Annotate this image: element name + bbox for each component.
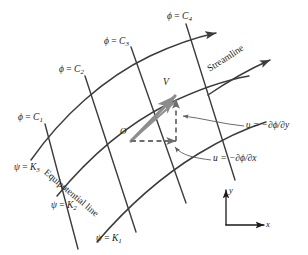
phi-c2-sub: 2 [80, 68, 84, 76]
phi-c2-eq: = [64, 64, 74, 74]
streamline-k1 [97, 122, 266, 242]
label-psi-k1: ψ = K1 [96, 234, 122, 245]
label-axis-x: x [266, 220, 270, 229]
phi-c4-sub: 4 [188, 15, 192, 23]
label-origin: O [120, 127, 127, 136]
streamline-k2 [57, 76, 249, 196]
streamline-k3 [31, 33, 216, 160]
label-phi-c4: ϕ = C4 [167, 12, 192, 23]
phi-c1-sub: 1 [39, 116, 43, 124]
phi-c3-sub: 3 [125, 40, 129, 48]
label-phi-c3: ϕ = C3 [104, 37, 129, 48]
label-phi-c1: ϕ = C1 [18, 113, 43, 124]
phi-c4-eq: = [172, 11, 182, 21]
psi-k2-eq: = [57, 200, 67, 210]
equipotential-c3 [131, 47, 186, 203]
phi-c1-eq: = [23, 112, 33, 122]
psi-k3-sub: 3 [36, 166, 40, 174]
psi-k1-eq: = [102, 233, 112, 243]
flow-net-figure: ϕ = C1 ϕ = C2 ϕ = C3 ϕ = C4 ψ = K3 ψ = K… [0, 0, 308, 255]
label-u-component: u = −∂ϕ/∂x [213, 154, 256, 164]
psi-k1-sub: 1 [118, 237, 122, 245]
velocity-vector-group [131, 96, 176, 141]
equipotential-family [45, 24, 235, 249]
label-v-component: υ = −∂ϕ/∂y [246, 121, 289, 131]
psi-k2-sub: 2 [73, 204, 77, 212]
label-axis-y: y [229, 186, 233, 195]
phi-c3-eq: = [109, 36, 119, 46]
v-label-leader [183, 116, 244, 126]
psi-k3-eq: = [20, 162, 30, 172]
label-psi-k2: ψ = K2 [51, 201, 77, 212]
label-psi-k3: ψ = K3 [14, 163, 40, 174]
coordinate-axes [226, 190, 264, 225]
label-velocity-vector: V [163, 78, 169, 88]
label-phi-c2: ϕ = C2 [59, 65, 84, 76]
